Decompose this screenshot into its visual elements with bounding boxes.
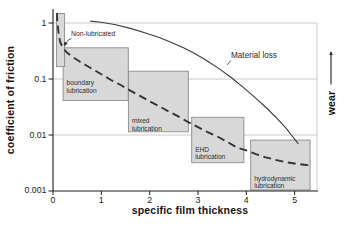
x-tick-label: 1: [99, 195, 104, 205]
region-label: lubrication: [132, 125, 162, 132]
region-label: lubrication: [254, 182, 284, 189]
x-axis-title: specific film thickness: [132, 205, 249, 216]
y-tick-label: 0.001: [24, 185, 46, 195]
material-loss-leader: [227, 61, 231, 65]
material-loss-label: Material loss: [231, 52, 277, 60]
region-label: mixed: [132, 117, 150, 124]
region-label: EHD: [195, 146, 209, 153]
region-label: lubrication: [195, 153, 225, 160]
chart-canvas: boundarylubricationmixedlubricationEHDlu…: [0, 0, 347, 228]
y-tick-label: 0.01: [29, 130, 46, 140]
x-tick-label: 5: [292, 195, 297, 205]
region-label: boundary: [67, 79, 95, 87]
y-tick-label: 1: [42, 18, 47, 28]
region-label: lubrication: [67, 87, 97, 94]
non-lubricated-arrow: [65, 39, 72, 46]
wear-label: wear: [326, 91, 337, 116]
non-lubricated-label: Non-lubricated: [71, 31, 115, 38]
y-axis-title: coefficient of friction: [5, 46, 16, 154]
stribeck-curve-figure: boundarylubricationmixedlubricationEHDlu…: [0, 0, 347, 228]
y-tick-label: 0.1: [34, 74, 46, 84]
x-tick-label: 0: [51, 195, 56, 205]
